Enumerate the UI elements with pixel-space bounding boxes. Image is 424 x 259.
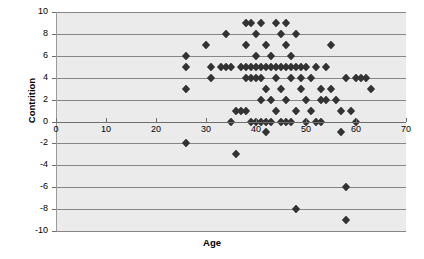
data-point (182, 84, 190, 92)
data-point (257, 73, 265, 81)
x-tick-label-30: 30 (191, 125, 221, 134)
data-point (262, 84, 270, 92)
data-point (287, 52, 295, 60)
data-point (267, 95, 275, 103)
data-point (272, 19, 280, 27)
y-tick--2 (52, 143, 56, 144)
y-tick-label--6: -6 (8, 182, 48, 191)
data-point (232, 150, 240, 158)
y-tick--8 (52, 209, 56, 210)
x-tick-70 (406, 118, 407, 122)
data-point (202, 41, 210, 49)
data-point (317, 84, 325, 92)
data-point (227, 63, 235, 71)
data-point (307, 73, 315, 81)
y-tick-label--8: -8 (8, 204, 48, 213)
y-tick-2 (52, 100, 56, 101)
gridline-y-2 (56, 100, 406, 101)
data-point (282, 19, 290, 27)
x-tick-label-60: 60 (341, 125, 371, 134)
x-tick-10 (106, 118, 107, 122)
gridline-y--10 (56, 231, 406, 232)
gridline-y-6 (56, 56, 406, 57)
data-point (342, 183, 350, 191)
data-point (367, 84, 375, 92)
data-point (297, 73, 305, 81)
x-tick-0 (56, 118, 57, 122)
data-point (302, 63, 310, 71)
data-point (342, 73, 350, 81)
y-tick--6 (52, 187, 56, 188)
x-tick-label-40: 40 (241, 125, 271, 134)
data-point (302, 95, 310, 103)
data-point (362, 73, 370, 81)
data-point (322, 95, 330, 103)
data-point (182, 63, 190, 71)
data-point (282, 41, 290, 49)
y-tick-label-8: 8 (8, 29, 48, 38)
data-point (312, 63, 320, 71)
x-tick-40 (256, 118, 257, 122)
gridline-y--8 (56, 209, 406, 210)
data-point (287, 73, 295, 81)
data-point (267, 52, 275, 60)
gridline-y-10 (56, 12, 406, 13)
x-tick-50 (306, 118, 307, 122)
gridline-y--6 (56, 187, 406, 188)
x-axis-line (56, 122, 406, 123)
y-tick-label-6: 6 (8, 51, 48, 60)
data-point (292, 30, 300, 38)
data-point (307, 106, 315, 114)
y-tick-8 (52, 34, 56, 35)
data-point (247, 19, 255, 27)
data-point (282, 95, 290, 103)
data-point (292, 106, 300, 114)
y-tick-label-10: 10 (8, 7, 48, 16)
data-point (207, 63, 215, 71)
x-tick-20 (156, 118, 157, 122)
data-point (207, 73, 215, 81)
data-point (272, 73, 280, 81)
data-point (322, 63, 330, 71)
gridline-y-8 (56, 34, 406, 35)
data-point (242, 106, 250, 114)
data-point (277, 84, 285, 92)
x-tick-label-20: 20 (141, 125, 171, 134)
data-point (277, 30, 285, 38)
y-tick--10 (52, 231, 56, 232)
gridline-y--4 (56, 165, 406, 166)
data-point (257, 95, 265, 103)
data-point (337, 106, 345, 114)
y-tick-4 (52, 78, 56, 79)
data-point (342, 216, 350, 224)
data-point (252, 30, 260, 38)
y-tick--4 (52, 165, 56, 166)
data-point (297, 84, 305, 92)
x-tick-label-50: 50 (291, 125, 321, 134)
data-point (347, 106, 355, 114)
x-tick-60 (356, 118, 357, 122)
x-axis-title: Age (0, 237, 424, 248)
y-tick-label-4: 4 (8, 73, 48, 82)
data-point (327, 41, 335, 49)
y-tick-label--4: -4 (8, 160, 48, 169)
y-tick-label-2: 2 (8, 95, 48, 104)
data-point (257, 19, 265, 27)
data-point (252, 52, 260, 60)
y-tick-10 (52, 12, 56, 13)
y-tick-6 (52, 56, 56, 57)
x-tick-label-70: 70 (391, 125, 421, 134)
y-tick-label--10: -10 (8, 226, 48, 235)
data-point (182, 52, 190, 60)
data-point (292, 205, 300, 213)
data-point (327, 84, 335, 92)
y-tick-label--2: -2 (8, 138, 48, 147)
data-point (182, 139, 190, 147)
data-point (262, 41, 270, 49)
gridline-y--2 (56, 143, 406, 144)
x-tick-label-10: 10 (91, 125, 121, 134)
x-tick-30 (206, 118, 207, 122)
data-point (242, 41, 250, 49)
data-point (222, 30, 230, 38)
x-tick-label-0: 0 (41, 125, 71, 134)
